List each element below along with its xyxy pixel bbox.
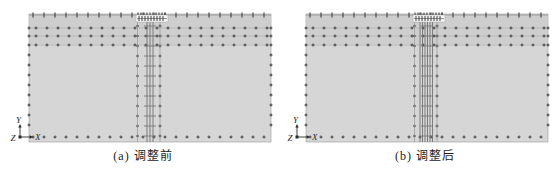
panel-b-caption: (b) 调整后 [320,146,530,164]
pile-cap [413,15,445,22]
axis-label-x: X [34,132,41,142]
axis-label-y: Y [293,115,299,125]
axis-label-z: Z [287,133,293,143]
axis-label-x: X [311,132,318,142]
figure-container: YXZYXZ (a) 调整前 (b) 调整后 [0,0,556,172]
panel-a-mesh [28,13,273,143]
pile-cap [136,15,168,22]
axis-label-y: Y [16,115,22,125]
panel-b-mesh [305,13,550,143]
panel-a-caption: (a) 调整前 [38,146,248,164]
axis-label-z: Z [10,133,16,143]
